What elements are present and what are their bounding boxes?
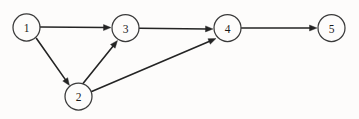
graph-svg: 12345 xyxy=(0,0,359,119)
node-label-3: 3 xyxy=(123,23,129,35)
arrowhead-icon xyxy=(205,26,213,32)
edge-2-to-3 xyxy=(83,41,118,84)
graph-canvas: 12345 xyxy=(0,0,359,119)
node-label-2: 2 xyxy=(76,91,82,103)
arrowhead-icon xyxy=(208,39,216,45)
node-5[interactable]: 5 xyxy=(318,15,345,42)
edge-layer xyxy=(37,25,318,92)
edge-4-to-5 xyxy=(242,25,318,31)
edge-shaft xyxy=(91,41,211,92)
edge-shaft xyxy=(40,27,105,28)
edge-shaft xyxy=(83,45,114,84)
edge-1-to-3 xyxy=(40,25,111,31)
node-3[interactable]: 3 xyxy=(112,15,139,42)
arrowhead-icon xyxy=(63,78,70,86)
node-2[interactable]: 2 xyxy=(65,83,92,110)
edge-1-to-2 xyxy=(37,39,70,86)
node-1[interactable]: 1 xyxy=(13,14,40,41)
node-label-1: 1 xyxy=(24,22,30,34)
edge-3-to-4 xyxy=(140,26,214,32)
node-label-5: 5 xyxy=(329,23,335,35)
node-label-4: 4 xyxy=(225,23,231,35)
arrowhead-icon xyxy=(310,25,318,31)
edge-shaft xyxy=(140,28,208,29)
node-4[interactable]: 4 xyxy=(214,15,241,42)
edge-shaft xyxy=(37,39,67,81)
edge-2-to-4 xyxy=(91,39,217,93)
arrowhead-icon xyxy=(103,25,111,31)
